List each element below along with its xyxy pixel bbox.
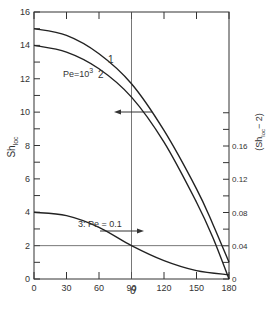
svg-text:Shloc: Shloc bbox=[6, 136, 19, 158]
y-tick-label: 4 bbox=[25, 207, 30, 217]
y-tick-label: 6 bbox=[25, 174, 30, 184]
chart-canvas: 0306090120150180024681012141600.040.080.… bbox=[0, 0, 270, 309]
svg-text:(Shloc− 2): (Shloc− 2) bbox=[254, 113, 266, 150]
curve-1-label: 1 bbox=[108, 54, 114, 65]
y-tick-label: 14 bbox=[20, 40, 30, 50]
x-tick-label: 60 bbox=[94, 283, 104, 293]
y-tick-label: 10 bbox=[20, 107, 30, 117]
x-tick-label: 180 bbox=[221, 283, 236, 293]
arrow-right-icon bbox=[137, 229, 144, 234]
y-tick-label: 0 bbox=[25, 274, 30, 284]
x-tick-label: 150 bbox=[189, 283, 204, 293]
y-right-tick-label: 0.08 bbox=[232, 209, 248, 218]
x-tick-label: 30 bbox=[61, 283, 71, 293]
pe-high-label: Pe=103 bbox=[63, 67, 93, 79]
y-right-tick-label: 0.04 bbox=[232, 242, 248, 251]
y-axis-label: Shloc bbox=[6, 136, 19, 158]
axes: 0306090120150180024681012141600.040.080.… bbox=[20, 7, 248, 293]
y-tick-label: 2 bbox=[25, 241, 30, 251]
y-right-tick-label: 0 bbox=[232, 275, 237, 284]
curve-2-label: 2 bbox=[98, 69, 104, 80]
y-tick-label: 16 bbox=[20, 7, 30, 17]
reference-lines bbox=[34, 12, 229, 279]
y-axis-right-label: (Shloc− 2) bbox=[254, 113, 266, 150]
y-right-tick-label: 0.12 bbox=[232, 175, 248, 184]
x-tick-label: 0 bbox=[31, 283, 36, 293]
y-tick-label: 8 bbox=[25, 141, 30, 151]
x-axis-label: θ bbox=[130, 284, 136, 296]
arrow-left-icon bbox=[114, 110, 121, 115]
curve-3-label: 3: Pe = 0.1 bbox=[78, 219, 122, 229]
y-tick-label: 12 bbox=[20, 74, 30, 84]
x-tick-label: 120 bbox=[156, 283, 171, 293]
y-right-tick-label: 0.16 bbox=[232, 142, 248, 151]
